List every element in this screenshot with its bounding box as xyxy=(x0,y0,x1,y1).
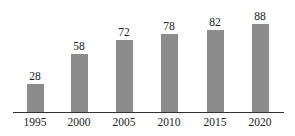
value-label-2010: 78 xyxy=(149,20,189,32)
bar-2010 xyxy=(161,34,178,112)
x-axis-line xyxy=(13,112,284,113)
x-tick-label-2020: 2020 xyxy=(240,116,280,128)
bar-2015 xyxy=(207,30,224,112)
value-label-2020: 88 xyxy=(240,10,280,22)
bar-2005 xyxy=(116,40,133,112)
value-label-1995: 28 xyxy=(15,70,55,82)
x-tick-label-2000: 2000 xyxy=(59,116,99,128)
bar-2020 xyxy=(252,24,269,112)
x-tick-label-1995: 1995 xyxy=(15,116,55,128)
x-tick-label-2015: 2015 xyxy=(195,116,235,128)
value-label-2015: 82 xyxy=(195,16,235,28)
bar-2000 xyxy=(71,54,88,112)
value-label-2000: 58 xyxy=(59,40,99,52)
x-tick-label-2010: 2010 xyxy=(149,116,189,128)
bar-1995 xyxy=(27,84,44,112)
value-label-2005: 72 xyxy=(104,26,144,38)
x-tick-label-2005: 2005 xyxy=(104,116,144,128)
bar-chart: 281995582000722005782010822015882020 xyxy=(0,0,295,136)
